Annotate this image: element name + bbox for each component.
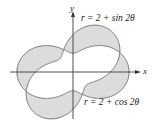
sin-curve-equation-label: r = 2 + sin 2θ [81, 14, 135, 24]
x-axis-label: x [143, 67, 147, 76]
y-axis-label: y [70, 4, 74, 13]
cos-curve-equation-label: r = 2 + cos 2θ [84, 98, 139, 108]
x-axis-arrow-icon [135, 70, 141, 74]
